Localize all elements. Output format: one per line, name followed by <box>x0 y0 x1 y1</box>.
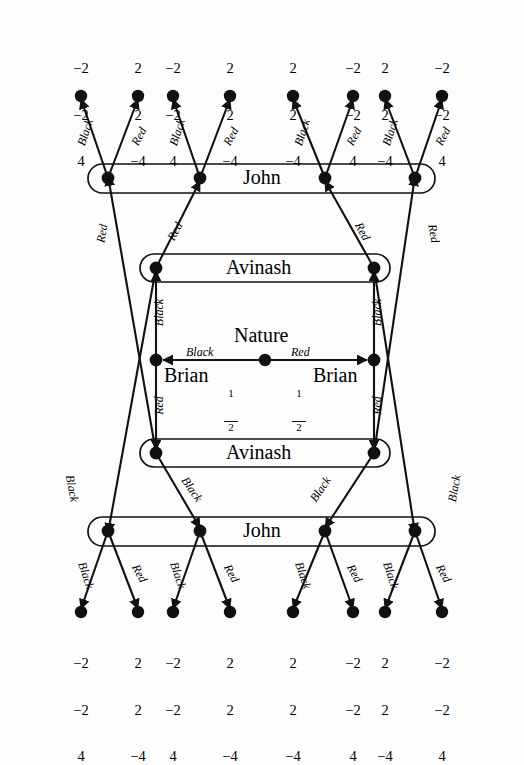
payoff-value: 4 <box>61 154 101 170</box>
payoff-top-3: −2 −2 4 <box>153 30 193 201</box>
payoff-value: 2 <box>210 108 250 124</box>
nature-node <box>259 354 271 366</box>
avinash-top-label: Avinash <box>226 256 291 279</box>
payoff-bottom-7: 2 2 −4 <box>365 625 405 765</box>
avinash-top-node <box>150 262 163 275</box>
payoff-bottom-1: −2 −2 4 <box>61 625 101 765</box>
terminal-node <box>379 606 391 618</box>
brian-right-label: Brian <box>313 364 357 387</box>
fraction-numerator: 1 <box>224 388 238 399</box>
nature-label: Nature <box>234 324 288 347</box>
terminal-node <box>224 606 236 618</box>
fraction-denominator: 2 <box>224 421 238 433</box>
john-bottom-node <box>102 525 115 538</box>
payoff-value: 2 <box>365 703 405 719</box>
payoff-value: 4 <box>422 154 462 170</box>
john-top-node <box>194 172 207 185</box>
payoff-value: 4 <box>61 749 101 765</box>
payoff-value: −2 <box>153 703 193 719</box>
payoff-value: 2 <box>210 656 250 672</box>
john-bottom-node <box>409 525 422 538</box>
john-bottom-node <box>319 525 332 538</box>
payoff-value: 2 <box>118 656 158 672</box>
payoff-value: 2 <box>273 703 313 719</box>
payoff-value: 2 <box>365 656 405 672</box>
payoff-value: −2 <box>153 656 193 672</box>
avinash-bottom-node <box>150 447 163 460</box>
payoff-bottom-3: −2 −2 4 <box>153 625 193 765</box>
john-bottom-node <box>194 525 207 538</box>
payoff-value: 2 <box>118 61 158 77</box>
terminal-node <box>436 606 448 618</box>
payoff-value: 2 <box>210 61 250 77</box>
avinash-bottom-node <box>368 447 381 460</box>
edge-label-nature-red: Red <box>291 345 310 360</box>
payoff-bottom-5: 2 2 −4 <box>273 625 313 765</box>
terminal-node <box>167 606 179 618</box>
payoff-value: 2 <box>210 703 250 719</box>
payoff-top-2: 2 2 −4 <box>118 30 158 201</box>
edge-label-nature-black: Black <box>186 345 213 360</box>
payoff-value: −2 <box>61 656 101 672</box>
edge-label-upper-mid-1: Red <box>93 223 111 244</box>
terminal-node <box>132 606 144 618</box>
payoff-value: −4 <box>273 749 313 765</box>
payoff-value: −2 <box>422 61 462 77</box>
avinash-top-node <box>368 262 381 275</box>
brian-left-node <box>150 354 163 367</box>
payoff-value: −4 <box>118 154 158 170</box>
payoff-value: 4 <box>422 749 462 765</box>
payoff-top-7: 2 2 −4 <box>365 30 405 201</box>
payoff-value: 2 <box>273 656 313 672</box>
payoff-value: 2 <box>118 108 158 124</box>
payoff-value: 4 <box>153 154 193 170</box>
payoff-value: −2 <box>61 61 101 77</box>
john-top-node <box>102 172 115 185</box>
payoff-value: 2 <box>118 703 158 719</box>
payoff-value: −4 <box>365 749 405 765</box>
terminal-node <box>347 606 359 618</box>
terminal-node <box>75 606 87 618</box>
john-top-node <box>409 172 422 185</box>
payoff-bottom-4: 2 2 −4 <box>210 625 250 765</box>
payoff-value: −2 <box>422 656 462 672</box>
terminal-node <box>287 606 299 618</box>
payoff-top-8: −2 −2 4 <box>422 30 462 201</box>
nature-right-probability: 1 2 <box>292 366 306 455</box>
fraction-numerator: 1 <box>292 388 306 399</box>
payoff-value: −4 <box>118 749 158 765</box>
fraction-denominator: 2 <box>292 421 306 433</box>
payoff-value: −4 <box>365 154 405 170</box>
payoff-value: −2 <box>422 703 462 719</box>
payoff-value: −2 <box>153 61 193 77</box>
payoff-value: −2 <box>61 703 101 719</box>
brian-left-label: Brian <box>164 364 208 387</box>
edge-label-brian-right-up: Black <box>370 299 385 326</box>
payoff-value: −2 <box>422 108 462 124</box>
edge-label-brian-left-down: Red <box>152 396 167 415</box>
payoff-top-1: −2 −2 4 <box>61 30 101 201</box>
edge-label-brian-left-up: Black <box>152 299 167 326</box>
edge-label-brian-right-down: Red <box>370 396 385 415</box>
payoff-value: −4 <box>210 749 250 765</box>
john-top-node <box>319 172 332 185</box>
brian-right-node <box>368 354 381 367</box>
payoff-bottom-8: −2 −2 4 <box>422 625 462 765</box>
nature-left-probability: 1 2 <box>224 366 238 455</box>
payoff-value: 2 <box>365 61 405 77</box>
john-bottom-label: John <box>243 519 281 542</box>
payoff-value: 4 <box>153 749 193 765</box>
john-top-label: John <box>243 166 281 189</box>
payoff-bottom-2: 2 2 −4 <box>118 625 158 765</box>
edge-label-upper-mid-4: Red <box>424 223 442 244</box>
payoff-value: 2 <box>273 61 313 77</box>
